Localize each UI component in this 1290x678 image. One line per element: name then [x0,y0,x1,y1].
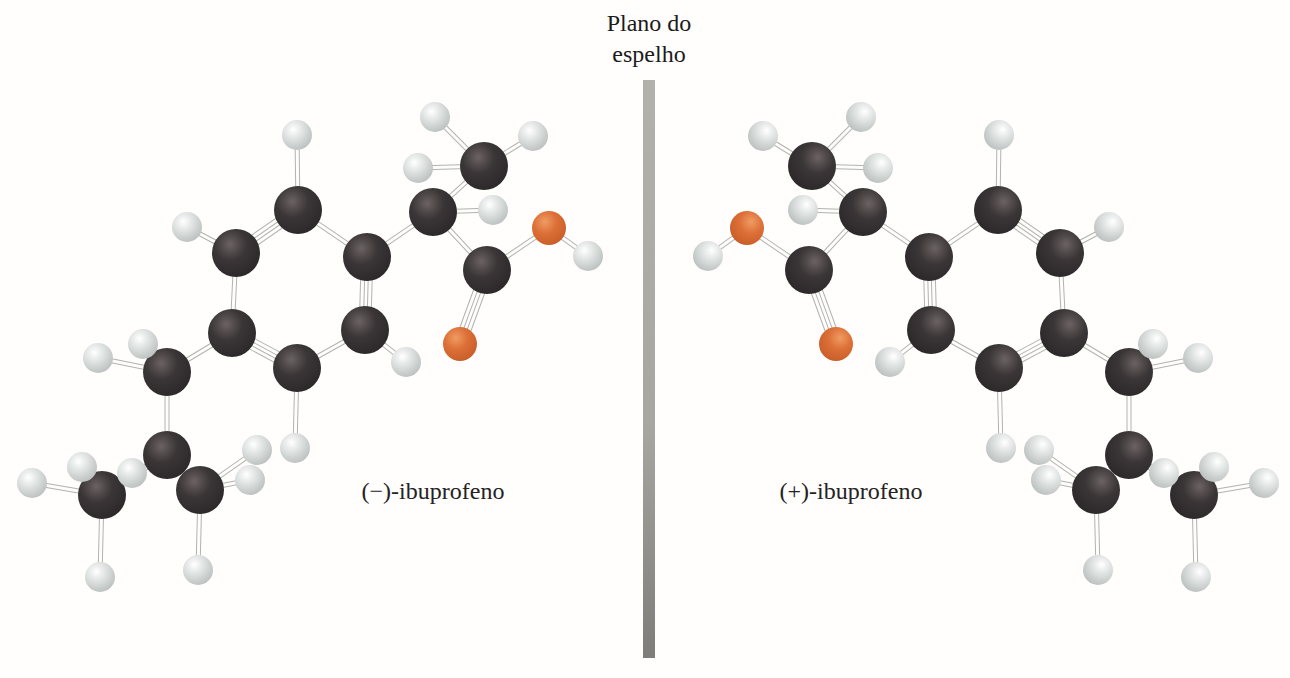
c-atom [409,188,457,236]
c-atom [212,229,260,277]
h-atom [788,195,818,225]
h-atom [1024,435,1054,465]
c-atom [143,431,191,479]
figure-canvas: Plano do espelho (−)-ibuprofeno (+)-ibup… [0,0,1290,678]
h-atom [67,452,97,482]
c-atom [341,306,389,354]
c-atom [463,246,511,294]
h-atom [1094,212,1124,242]
h-atom [1249,468,1279,498]
mirror-plane-bar [643,80,655,658]
h-atom [846,102,876,132]
left-enantiomer-label: (−)-ibuprofeno [362,478,505,505]
c-atom [974,186,1022,234]
mirror-plane-label-line2: espelho [607,39,692,70]
o-atom [443,327,477,361]
h-atom [1149,458,1179,488]
h-atom [83,343,113,373]
h-atom [183,555,213,585]
h-atom [863,153,893,183]
h-atom [17,468,47,498]
c-atom [1072,466,1120,514]
h-atom [172,212,202,242]
h-atom [85,562,115,592]
h-atom [1138,329,1168,359]
h-atom [1183,343,1213,373]
c-atom [905,233,953,281]
o-atom [730,211,764,245]
h-atom [1181,562,1211,592]
h-atom [280,433,310,463]
h-atom [420,102,450,132]
c-atom [1040,309,1088,357]
h-atom [128,329,158,359]
left-molecule [17,102,603,592]
h-atom [986,433,1016,463]
h-atom [235,465,265,495]
c-atom [839,188,887,236]
o-atom [819,327,853,361]
h-atom [748,121,778,151]
c-atom [1036,229,1084,277]
h-atom [117,458,147,488]
c-atom [907,306,955,354]
c-atom [176,466,224,514]
h-atom [242,435,272,465]
c-atom [975,344,1023,392]
mirror-plane-label-line1: Plano do [607,8,692,39]
h-atom [518,121,548,151]
h-atom [693,241,723,271]
mirror-plane-label: Plano do espelho [607,8,692,70]
right-molecule [693,102,1279,592]
c-atom [1105,431,1153,479]
h-atom [1083,555,1113,585]
c-atom [785,246,833,294]
h-atom [984,120,1014,150]
h-atom [1199,452,1229,482]
right-enantiomer-label: (+)-ibuprofeno [780,478,923,505]
h-atom [478,195,508,225]
c-atom [273,344,321,392]
h-atom [1031,465,1061,495]
c-atom [343,233,391,281]
h-atom [573,241,603,271]
molecule-diagram [0,0,1290,678]
c-atom [460,142,508,190]
h-atom [282,120,312,150]
c-atom [788,142,836,190]
h-atom [403,153,433,183]
c-atom [208,309,256,357]
o-atom [532,211,566,245]
c-atom [274,186,322,234]
h-atom [391,347,421,377]
h-atom [875,347,905,377]
